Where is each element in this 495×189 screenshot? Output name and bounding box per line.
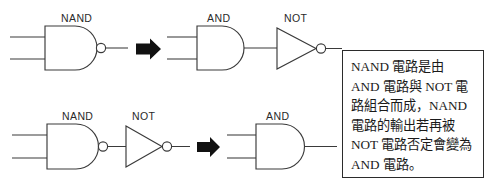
callout-line: AND 電路與 NOT 電 bbox=[351, 77, 476, 97]
and-top-body bbox=[197, 26, 244, 70]
explanation-callout-text: NAND 電路是由 AND 電路與 NOT 電 路組合而成，NAND 電路的輸出… bbox=[343, 51, 483, 179]
right-arrow-icon bbox=[197, 137, 220, 157]
nand-bottom-body bbox=[47, 124, 99, 169]
not-bottom-triangle bbox=[126, 126, 162, 167]
not-top-inversion-bubble bbox=[316, 44, 325, 53]
gate-label-and-top: AND bbox=[207, 12, 230, 24]
and-bottom-body bbox=[256, 124, 305, 169]
gate-label-nand-top: NAND bbox=[61, 12, 92, 24]
callout-line: NOT 電路否定會變為 bbox=[351, 135, 476, 155]
right-arrow-icon bbox=[136, 39, 161, 60]
nand-top-inversion-bubble bbox=[96, 43, 105, 52]
not-top-triangle bbox=[277, 28, 316, 69]
callout-line: 電路的輸出若再被 bbox=[351, 116, 476, 136]
gate-label-not-top: NOT bbox=[284, 12, 308, 24]
nand-bottom-inversion-bubble bbox=[98, 142, 107, 151]
explanation-callout-box: NAND 電路是由 AND 電路與 NOT 電 路組合而成，NAND 電路的輸出… bbox=[342, 50, 484, 178]
gate-nand-top: NAND bbox=[10, 12, 128, 70]
arrow-top bbox=[136, 39, 161, 60]
arrow-bottom bbox=[197, 137, 220, 157]
gate-not-bottom: NOT bbox=[126, 110, 190, 167]
gate-and-bottom: AND bbox=[227, 110, 337, 169]
gate-not-top: NOT bbox=[277, 12, 342, 69]
callout-line: AND 電路。 bbox=[351, 155, 476, 175]
gate-label-nand-bottom: NAND bbox=[62, 110, 93, 122]
gate-label-not-bottom: NOT bbox=[132, 110, 156, 122]
nand-top-body bbox=[45, 26, 97, 70]
not-bottom-inversion-bubble bbox=[162, 142, 171, 151]
callout-line: 路組合而成，NAND bbox=[351, 96, 476, 116]
gate-label-and-bottom: AND bbox=[266, 110, 289, 122]
gate-nand-bottom: NAND bbox=[12, 110, 126, 169]
callout-line: NAND 電路是由 bbox=[351, 57, 476, 77]
diagram-canvas: NAND AND NOT NAND bbox=[0, 0, 495, 189]
gate-and-top: AND bbox=[167, 12, 277, 70]
